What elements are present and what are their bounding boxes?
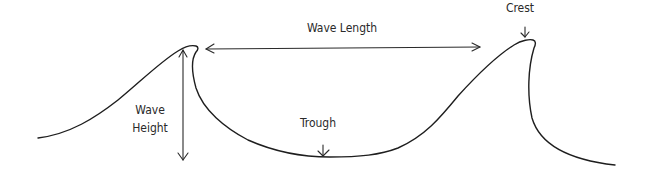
wave-diagram: Wave Length Wave Height Trough Crest <box>0 0 650 178</box>
wave-height-arrow <box>178 50 188 160</box>
crest-label: Crest <box>506 1 534 15</box>
crest-arrow <box>521 27 529 37</box>
wave-length-arrow <box>206 43 480 53</box>
wave-profile <box>38 40 615 165</box>
wave-height-label-line1: Wave <box>135 103 165 117</box>
trough-label: Trough <box>299 116 336 130</box>
wave-height-label-line2: Height <box>132 121 168 135</box>
wave-length-label: Wave Length <box>307 21 377 35</box>
trough-arrow <box>318 145 329 156</box>
